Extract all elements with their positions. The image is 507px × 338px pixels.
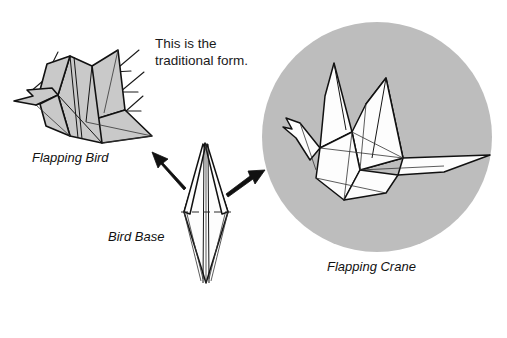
diagram-canvas: Flapping Bird This is the traditional fo…: [0, 0, 507, 338]
origami-diagram-root: Flapping Bird This is the traditional fo…: [0, 0, 507, 338]
label-flapping-crane: Flapping Crane: [327, 259, 416, 274]
arrow-to-flapping-crane: [226, 170, 265, 197]
arrow-to-flapping-bird: [152, 152, 186, 190]
caption-line-1: This is the: [155, 36, 217, 51]
flapping-bird-figure: [14, 50, 152, 143]
bird-base-figure: [181, 143, 231, 283]
caption-line-2: traditional form.: [155, 53, 248, 68]
label-flapping-bird: Flapping Bird: [32, 150, 109, 165]
label-bird-base: Bird Base: [108, 229, 164, 244]
